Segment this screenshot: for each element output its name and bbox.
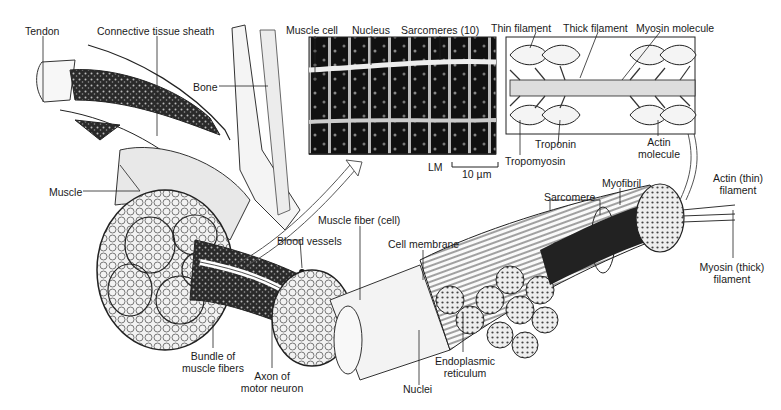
label-cell-membrane: Cell membrane [388,238,459,250]
diagram-artwork [0,0,781,410]
label-bundle-of-muscle-fibers: Bundle of muscle fibers [180,350,246,374]
label-lm: LM [428,161,443,173]
label-muscle-fiber: Muscle fiber (cell) [318,214,400,226]
label-blood-vessels: Blood vessels [277,235,342,247]
label-muscle: Muscle [49,186,82,198]
muscle-diagram: Tendon Connective tissue sheath Bone Mus… [0,0,781,410]
label-endoplasmic-reticulum: Endoplasmic reticulum [430,355,500,379]
label-sarcomeres: Sarcomeres (10) [401,24,479,36]
label-connective-tissue-sheath: Connective tissue sheath [97,25,214,37]
label-actin-molecule: Actin molecule [637,136,681,160]
label-tropomyosin: Tropomyosin [505,155,565,167]
label-nuclei: Nuclei [403,383,432,395]
label-muscle-cell: Muscle cell [286,24,338,36]
label-actin-thin-filament: Actin (thin) filament [706,172,770,196]
label-myosin-thick-filament: Myosin (thick) filament [692,261,772,285]
label-troponin: Troponin [535,138,576,150]
label-scale-bar: 10 µm [462,168,491,180]
label-tendon: Tendon [25,25,59,37]
label-nucleus: Nucleus [352,24,390,36]
label-thick-filament: Thick filament [563,22,628,34]
label-bone: Bone [193,81,218,93]
label-myosin-molecule: Myosin molecule [636,22,714,34]
label-sarcomere: Sarcomere [544,191,595,203]
label-axon-of-motor-neuron: Axon of motor neuron [238,370,306,394]
label-thin-filament: Thin filament [491,22,551,34]
label-myofibril: Myofibril [602,177,641,189]
